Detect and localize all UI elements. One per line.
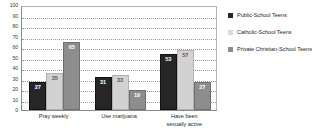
y-tick-label: 90 <box>12 14 18 19</box>
y-tick-label: 50 <box>12 56 18 61</box>
legend-item[interactable]: Private Christian-School Teens <box>228 42 335 57</box>
bar-value-label: 19 <box>130 93 145 99</box>
legend-label: Private Christian-School Teens <box>237 47 312 53</box>
bar[interactable]: 53 <box>160 54 177 110</box>
y-tick-label: 30 <box>12 77 18 82</box>
bar-chart-figure: 0102030405060708090100 27356531331953572… <box>0 0 335 137</box>
bar-value-label: 53 <box>161 57 176 63</box>
legend-item[interactable]: Catholic-School Teens <box>228 25 335 40</box>
chart-legend: Public-School TeensCatholic-School Teens… <box>228 8 335 59</box>
x-axis-label-line: sexually active <box>152 121 217 129</box>
y-tick-label: 80 <box>12 24 18 29</box>
bars-layer: 273565313319535727 <box>22 7 216 110</box>
bar[interactable]: 33 <box>112 75 129 110</box>
bar[interactable]: 31 <box>95 77 112 110</box>
legend-swatch-icon <box>228 13 233 18</box>
x-axis-label: Use marijuana <box>86 113 151 121</box>
y-tick-label: 0 <box>15 108 18 113</box>
x-axis-category-labels: Pray weeklyUse marijuanaHave beensexuall… <box>21 113 217 137</box>
bar-group: 535727 <box>160 7 211 110</box>
bar-value-label: 27 <box>195 85 210 91</box>
x-axis-label-line: Use marijuana <box>86 113 151 121</box>
y-tick-label: 60 <box>12 45 18 50</box>
bar[interactable]: 65 <box>63 42 80 110</box>
bar-value-label: 35 <box>47 76 62 82</box>
bar-value-label: 27 <box>30 85 45 91</box>
bar-value-label: 57 <box>178 53 193 59</box>
legend-item[interactable]: Public-School Teens <box>228 8 335 23</box>
legend-swatch-icon <box>228 47 233 52</box>
x-axis-label-line: Have been <box>152 113 217 121</box>
x-axis-label-line: Pray weekly <box>21 113 86 121</box>
legend-label: Catholic-School Teens <box>237 30 292 36</box>
bar-group: 313319 <box>95 7 146 110</box>
plot-area: 273565313319535727 <box>21 6 217 111</box>
x-axis-label: Pray weekly <box>21 113 86 121</box>
y-tick-label: 70 <box>12 35 18 40</box>
y-tick-label: 40 <box>12 66 18 71</box>
bar[interactable]: 27 <box>29 82 46 110</box>
bar[interactable]: 27 <box>194 82 211 110</box>
bar[interactable]: 57 <box>177 50 194 110</box>
y-axis: 0102030405060708090100 <box>0 6 20 111</box>
bar[interactable]: 19 <box>129 90 146 110</box>
bar[interactable]: 35 <box>46 73 63 110</box>
bar-value-label: 33 <box>113 78 128 84</box>
x-axis-label: Have beensexually active <box>152 113 217 128</box>
y-tick-label: 10 <box>12 98 18 103</box>
y-tick-label: 100 <box>10 3 18 8</box>
legend-label: Public-School Teens <box>237 13 287 19</box>
bar-group: 273565 <box>29 7 80 110</box>
bar-value-label: 31 <box>96 80 111 86</box>
bar-value-label: 65 <box>64 45 79 51</box>
legend-swatch-icon <box>228 30 233 35</box>
y-tick-label: 20 <box>12 87 18 92</box>
